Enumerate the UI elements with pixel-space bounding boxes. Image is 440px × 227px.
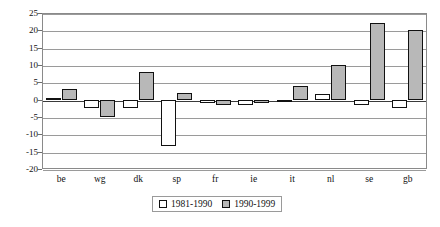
bar <box>370 23 385 99</box>
bar <box>84 100 99 109</box>
x-axis-tick-label: sp <box>173 173 181 185</box>
y-axis-tick-mark <box>37 169 42 170</box>
bar <box>200 100 215 103</box>
legend-swatch-icon <box>159 200 167 208</box>
x-axis-labels: bewgdkspfrieitnlsegb <box>42 173 427 189</box>
x-axis-tick-label: it <box>290 173 295 185</box>
bar <box>331 65 346 100</box>
bar-group <box>389 13 428 169</box>
bar-group <box>81 13 120 169</box>
bar <box>408 30 423 99</box>
bar-group <box>235 13 274 169</box>
bar-group <box>42 13 81 169</box>
bar <box>100 100 115 117</box>
bar <box>139 72 154 100</box>
x-axis-tick-label: nl <box>327 173 334 185</box>
bar <box>277 100 292 102</box>
legend-item[interactable]: 1990-1999 <box>222 199 275 209</box>
gridline <box>43 170 426 171</box>
x-axis-tick-label: ie <box>250 173 257 185</box>
bar <box>238 100 253 105</box>
legend-swatch-icon <box>222 200 230 208</box>
bar <box>123 100 138 109</box>
x-axis-tick-label: se <box>365 173 373 185</box>
x-axis-tick-label: gb <box>403 173 413 185</box>
x-axis-tick-label: wg <box>94 173 106 185</box>
bar-group <box>350 13 389 169</box>
bar-group <box>196 13 235 169</box>
bar <box>216 100 231 105</box>
legend-item[interactable]: 1981-1990 <box>159 199 212 209</box>
bar <box>392 100 407 109</box>
bar-group <box>119 13 158 169</box>
x-axis-tick-label: fr <box>212 173 218 185</box>
bar <box>46 98 61 100</box>
bars-layer <box>42 13 427 169</box>
bar-group <box>273 13 312 169</box>
bar-chart: 2520151050-5-10-15-20 bewgdkspfrieitnlse… <box>0 0 440 227</box>
bar-group <box>312 13 351 169</box>
bar <box>161 100 176 147</box>
legend-label: 1990-1999 <box>234 199 275 209</box>
x-axis-tick-label: dk <box>134 173 144 185</box>
bar <box>354 100 369 105</box>
bar <box>62 89 77 99</box>
legend-label: 1981-1990 <box>171 199 212 209</box>
bar <box>177 93 192 100</box>
chart-legend: 1981-19901990-1999 <box>152 196 282 212</box>
bar <box>293 86 308 100</box>
x-axis-tick-label: be <box>57 173 66 185</box>
bar-group <box>158 13 197 169</box>
bar <box>254 100 269 103</box>
bar <box>315 94 330 99</box>
